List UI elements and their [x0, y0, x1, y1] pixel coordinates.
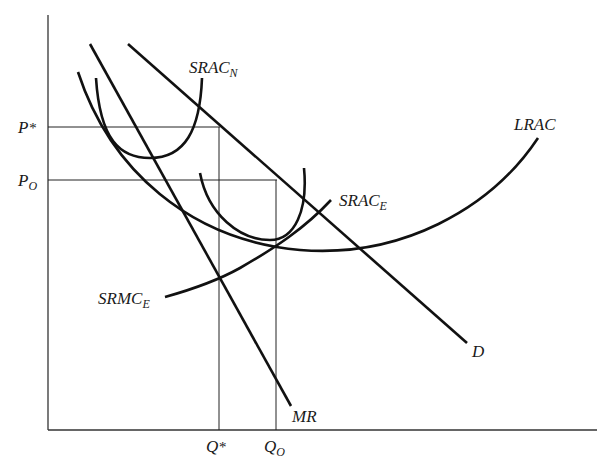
lrac-curve	[78, 72, 538, 251]
cost-curves-diagram: SRACN LRAC SRACE SRMCE D MR P* PO Q* QO	[0, 0, 611, 466]
srac-n-curve	[96, 78, 202, 158]
label-srmc-e: SRMCE	[98, 289, 150, 311]
demand-curve	[128, 44, 467, 343]
y-tick-p-o: PO	[17, 171, 37, 193]
label-srac-n: SRACN	[189, 58, 239, 80]
label-lrac: LRAC	[513, 115, 556, 134]
y-tick-p-star: P*	[17, 118, 36, 137]
label-srac-e: SRACE	[339, 191, 388, 213]
label-mr: MR	[291, 407, 317, 426]
label-demand: D	[471, 342, 485, 361]
x-tick-q-o: QO	[264, 437, 285, 459]
x-tick-q-star: Q*	[206, 437, 226, 456]
